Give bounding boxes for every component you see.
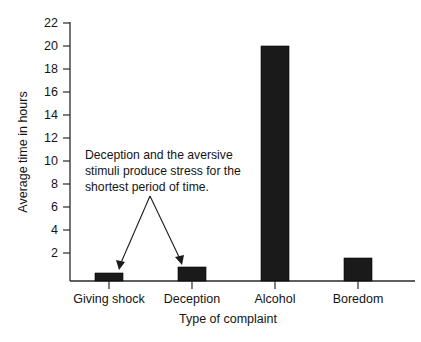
y-tick-label: 20 bbox=[44, 39, 58, 53]
chart-svg: 2 4 6 8 10 12 14 16 18 20 22 Average tim… bbox=[0, 0, 421, 342]
y-tick-label: 4 bbox=[51, 223, 58, 237]
y-axis-title: Average time in hours bbox=[16, 91, 30, 212]
annotation-line-1: Deception and the aversive bbox=[85, 148, 233, 162]
y-tick-label: 10 bbox=[44, 154, 58, 168]
x-tick-label-giving-shock: Giving shock bbox=[73, 292, 145, 306]
y-tick-label: 8 bbox=[51, 177, 58, 191]
y-tick-label: 12 bbox=[44, 131, 58, 145]
bar-alcohol bbox=[261, 46, 289, 281]
bar-giving-shock bbox=[95, 273, 123, 281]
annotation-line-2: stimuli produce stress for the bbox=[85, 164, 241, 178]
y-tick-label: 2 bbox=[51, 246, 58, 260]
y-tick-label: 6 bbox=[51, 200, 58, 214]
y-tick-label: 14 bbox=[44, 108, 58, 122]
y-tick-label: 16 bbox=[44, 85, 58, 99]
x-tick-label-deception: Deception bbox=[164, 292, 220, 306]
annotation-line-3: shortest period of time. bbox=[85, 180, 209, 194]
x-tick-label-boredom: Boredom bbox=[333, 292, 384, 306]
bar-boredom bbox=[344, 258, 372, 281]
bar-deception bbox=[178, 267, 206, 281]
x-axis-title: Type of complaint bbox=[179, 312, 277, 326]
y-tick-label: 22 bbox=[44, 16, 58, 30]
y-tick-label: 18 bbox=[44, 62, 58, 76]
x-tick-label-alcohol: Alcohol bbox=[255, 292, 296, 306]
bar-chart-figure: 2 4 6 8 10 12 14 16 18 20 22 Average tim… bbox=[0, 0, 421, 342]
